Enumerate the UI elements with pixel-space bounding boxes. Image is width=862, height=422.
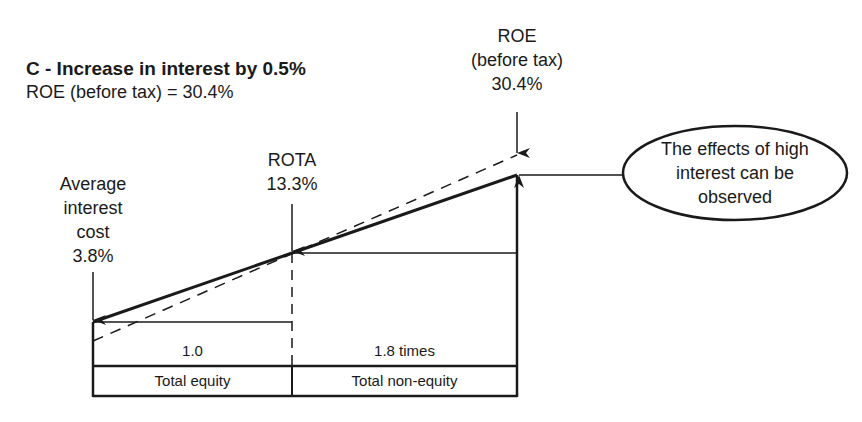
interest-label-line2: interest [38, 196, 148, 220]
roe-value: 30.4% [452, 72, 582, 96]
equity-ratio: 1.0 [93, 342, 292, 359]
roe-label: ROE (before tax) 30.4% [452, 24, 582, 96]
roe-label-line1: ROE [452, 24, 582, 48]
total-equity-label: Total equity [93, 372, 292, 389]
interest-label-line3: cost [38, 220, 148, 244]
non-equity-ratio: 1.8 times [292, 342, 517, 359]
rota-label-text: ROTA [242, 148, 342, 172]
callout-line2: interest can be [635, 161, 835, 185]
interest-value: 3.8% [38, 244, 148, 268]
base-table [93, 175, 517, 397]
roe-label-line2: (before tax) [452, 48, 582, 72]
interest-cost-label: Average interest cost 3.8% [38, 172, 148, 268]
total-non-equity-label: Total non-equity [292, 372, 517, 389]
rota-label: ROTA 13.3% [242, 148, 342, 196]
callout-line3: observed [635, 185, 835, 209]
interest-label-line1: Average [38, 172, 148, 196]
callout-text: The effects of high interest can be obse… [635, 137, 835, 209]
rota-value: 13.3% [242, 172, 342, 196]
callout-line1: The effects of high [635, 137, 835, 161]
